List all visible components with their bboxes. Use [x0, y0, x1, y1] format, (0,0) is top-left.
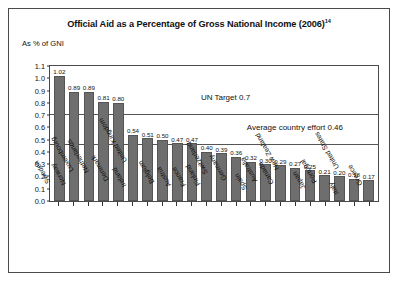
chart-figure: Official Aid as a Percentage of Gross Na…	[8, 8, 390, 273]
y-axis-tick-label: 0.5	[35, 135, 45, 144]
x-axis-label-slot: New Zealand	[288, 206, 303, 272]
y-axis-tick-label: 0.9	[35, 86, 45, 95]
bar-value-label: 0.50	[156, 132, 168, 139]
bar-slot: 0.89	[81, 66, 96, 201]
bar-slot: 0.89	[67, 66, 82, 201]
bar-slot: 0.29	[273, 66, 288, 201]
x-axis-label-slot: United Kingdom	[140, 206, 155, 272]
bar-value-label: 0.54	[127, 127, 139, 134]
y-axis-tick-label: 0.0	[35, 197, 45, 206]
bar-series: 1.020.890.890.810.800.540.510.500.470.47…	[50, 66, 378, 201]
x-axis-label-slot: Belgium	[155, 206, 170, 272]
x-axis-label-slot: Ireland	[125, 206, 140, 272]
y-axis-tick-label: 0.4	[35, 147, 45, 156]
x-axis-labels: SwedenNorwayLuxembourgNetherlandsDenmark…	[49, 206, 379, 272]
x-axis-label-slot: Portugal	[318, 206, 333, 272]
y-axis-tick-label: 0.8	[35, 98, 45, 107]
bar-slot: 0.40	[199, 66, 214, 201]
bar-slot: 0.20	[332, 66, 347, 201]
bar-value-label: 0.81	[98, 94, 110, 101]
bar-value-label: 0.20	[333, 169, 345, 176]
y-axis-tick-label: 1.0	[35, 74, 45, 83]
x-axis-label-slot: Australia	[258, 206, 273, 272]
bar	[84, 92, 95, 201]
bar	[275, 165, 286, 201]
plot-area: 0.00.10.20.30.40.50.60.70.80.91.01.1 UN …	[49, 65, 379, 202]
x-axis-category-label: Greece	[363, 207, 381, 230]
x-axis-label-slot: Netherlands	[95, 206, 110, 272]
x-axis-label-slot: France	[184, 206, 199, 272]
plot-wrapper: 0.00.10.20.30.40.50.60.70.80.91.01.1 UN …	[49, 65, 379, 202]
y-axis-tick-label: 0.7	[35, 111, 45, 120]
y-axis-label: As % of GNI	[22, 39, 64, 48]
y-axis-tick-label: 1.1	[35, 62, 45, 71]
bar-value-label: 1.02	[53, 68, 65, 75]
x-axis-label-slot: Finland	[199, 206, 214, 272]
x-axis-label-slot: Switzerland	[214, 206, 229, 272]
x-axis-label-slot: Italy	[332, 206, 347, 272]
bar	[98, 102, 109, 201]
x-axis-label-slot: Canada	[273, 206, 288, 272]
x-axis-label-slot: Norway	[66, 206, 81, 272]
bar-slot: 0.54	[126, 66, 141, 201]
bar-value-label: 0.40	[201, 144, 213, 151]
bar-value-label: 0.47	[171, 136, 183, 143]
x-axis-label-slot: United States	[347, 206, 362, 272]
y-axis-tick-label: 0.1	[35, 184, 45, 193]
x-axis-category-label: Italy	[334, 207, 346, 222]
x-axis-label-slot: Greece	[362, 206, 377, 272]
bar-value-label: 0.89	[68, 84, 80, 91]
bar	[128, 135, 139, 201]
x-axis-label-slot: Germany	[229, 206, 244, 272]
chart-title-footnote-marker: 14	[325, 18, 331, 24]
x-axis-label-slot: Luxembourg	[81, 206, 96, 272]
x-axis-label-slot: Denmark	[110, 206, 125, 272]
x-axis-label-slot: Sweden	[51, 206, 66, 272]
bar	[363, 180, 374, 201]
chart-title-text: Official Aid as a Percentage of Gross Na…	[67, 19, 325, 29]
y-axis-tick-label: 0.6	[35, 123, 45, 132]
x-axis-label-slot: Spain	[244, 206, 259, 272]
bar-value-label: 0.17	[363, 173, 375, 180]
chart-title: Official Aid as a Percentage of Gross Na…	[9, 18, 389, 29]
x-axis-label-slot: Japan	[303, 206, 318, 272]
bar-value-label: 0.89	[83, 84, 95, 91]
bar-value-label: 0.80	[112, 95, 124, 102]
x-axis-label-slot: Austria	[170, 206, 185, 272]
bar-slot: 0.17	[361, 66, 376, 201]
bar-value-label: 0.36	[230, 149, 242, 156]
bar-value-label: 0.39	[215, 146, 227, 153]
bar-value-label: 0.21	[319, 168, 331, 175]
bar-value-label: 0.51	[142, 131, 154, 138]
